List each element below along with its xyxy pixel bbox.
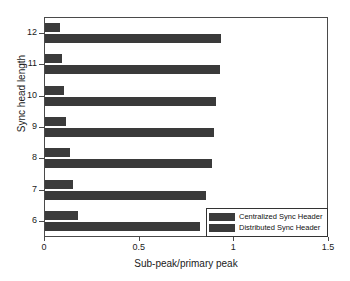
chart-legend: Centralized Sync Header Distributed Sync… [206,208,328,237]
bar-centralized-7 [45,180,73,189]
x-tick-0 [44,237,45,241]
bar-distributed-10 [45,97,216,106]
bar-distributed-12 [45,34,221,43]
bar-distributed-8 [45,159,212,168]
y-tick-label-6: 6 [32,216,37,225]
y-tick-label-10: 10 [27,91,37,100]
legend-item-centralized: Centralized Sync Header [209,212,325,222]
bar-distributed-11 [45,65,220,74]
legend-swatch-distributed [209,224,235,232]
chart-figure: Sync head length 6789101112 00.511.5 Sub… [0,0,350,281]
bar-centralized-9 [45,117,66,126]
bar-centralized-8 [45,148,70,157]
bar-centralized-6 [45,211,78,220]
legend-label-centralized: Centralized Sync Header [239,213,322,221]
bar-centralized-10 [45,86,64,95]
bars-layer [45,18,327,236]
x-tick-0.5 [139,237,140,241]
bar-centralized-12 [45,23,60,32]
y-axis-label: Sync head length [16,34,27,154]
plot-area [44,17,328,237]
bar-distributed-6 [45,222,200,231]
y-tick-label-12: 12 [27,28,37,37]
bar-distributed-7 [45,191,206,200]
x-tick-label-0.5: 0.5 [122,243,156,252]
x-tick-1.5 [328,237,329,241]
x-tick-1 [233,237,234,241]
bar-distributed-9 [45,128,214,137]
y-tick-label-11: 11 [28,59,37,68]
legend-swatch-centralized [209,213,235,221]
x-tick-label-1: 1 [216,243,250,252]
y-tick-label-9: 9 [32,122,37,131]
x-axis-label: Sub-peak/primary peak [44,258,328,269]
y-tick-label-8: 8 [32,153,37,162]
legend-item-distributed: Distributed Sync Header [209,223,325,233]
x-tick-label-1.5: 1.5 [311,243,345,252]
y-tick-label-7: 7 [32,185,37,194]
bar-centralized-11 [45,54,62,63]
legend-label-distributed: Distributed Sync Header [239,224,320,232]
x-tick-label-0: 0 [27,243,61,252]
